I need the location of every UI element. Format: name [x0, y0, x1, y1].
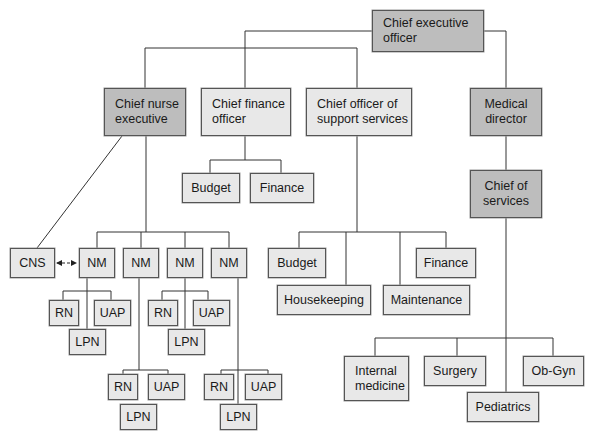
node-nm-4: NM [211, 248, 247, 278]
node-cfo-finance: Finance [250, 173, 314, 203]
node-internal-medicine: Internal medicine [344, 356, 409, 401]
node-coss-housekeeping: Housekeeping [277, 285, 371, 315]
node-nm-2: NM [123, 248, 159, 278]
node-coss-budget: Budget [268, 248, 326, 278]
node-nm1-lpn: LPN [69, 329, 106, 355]
node-chief-finance-officer: Chief finance officer [201, 88, 291, 136]
node-nm2-uap: UAP [148, 374, 185, 400]
node-nm2-rn: RN [108, 374, 138, 400]
node-chief-officer-support-services: Chief officer of support services [306, 88, 412, 136]
node-nm-1: NM [79, 248, 115, 278]
node-nm4-rn: RN [204, 374, 234, 400]
node-nm2-lpn: LPN [120, 404, 157, 430]
node-surgery: Surgery [424, 356, 486, 386]
node-nm4-uap: UAP [245, 374, 282, 400]
node-coss-finance: Finance [416, 248, 476, 278]
node-nm4-lpn: LPN [220, 404, 257, 430]
node-pediatrics: Pediatrics [467, 392, 539, 422]
node-chief-of-services: Chief of services [470, 170, 542, 218]
node-cfo-budget: Budget [182, 173, 240, 203]
node-cns: CNS [10, 248, 55, 278]
node-medical-director: Medical director [470, 88, 542, 136]
connector-lines [0, 0, 599, 439]
node-coss-maintenance: Maintenance [383, 285, 470, 315]
node-nm3-lpn: LPN [168, 329, 205, 355]
node-nm3-uap: UAP [193, 300, 230, 326]
node-nm-3: NM [167, 248, 203, 278]
node-nm1-rn: RN [49, 300, 79, 326]
node-ob-gyn: Ob-Gyn [523, 356, 584, 386]
node-chief-nurse-executive: Chief nurse executive [104, 88, 186, 136]
node-nm1-uap: UAP [94, 300, 131, 326]
node-chief-executive-officer: Chief executive officer [372, 10, 484, 52]
node-nm3-rn: RN [148, 300, 178, 326]
